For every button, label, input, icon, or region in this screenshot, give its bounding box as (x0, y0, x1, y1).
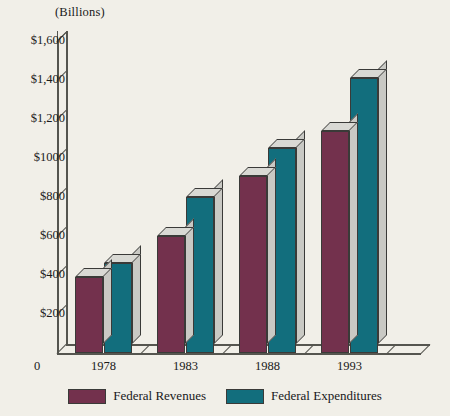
bar-front-face (157, 236, 185, 353)
y-axis-tick-label: $1,600 (0, 33, 65, 48)
bar-side-face (378, 60, 387, 344)
federal-budget-bar-chart: (Billions) $200$400$600$800$1000$1,200$1… (0, 0, 450, 416)
bar-front-face (239, 176, 267, 353)
x-axis-label-1988: 1988 (238, 359, 298, 374)
legend-label-revenues: Federal Revenues (113, 388, 206, 404)
legend-label-expenditures: Federal Expenditures (271, 388, 382, 404)
bar-side-face (296, 130, 305, 344)
x-axis-label-1993: 1993 (320, 359, 380, 374)
y-axis-tick-label: $1000 (0, 150, 65, 165)
plot-area: $200$400$600$800$1000$1,200$1,400$1,600 … (0, 0, 450, 416)
bar-front-face (75, 277, 103, 353)
x-axis-label-1978: 1978 (74, 359, 134, 374)
bar-side-face (185, 218, 194, 344)
bar-side-face (349, 113, 358, 344)
y-axis-tick-label: $800 (0, 189, 65, 204)
x-axis-label-1983: 1983 (156, 359, 216, 374)
bar-1983-revenues[interactable] (157, 227, 185, 353)
legend-item-expenditures[interactable]: Federal Expenditures (226, 388, 382, 404)
chart-legend: Federal Revenues Federal Expenditures (0, 388, 450, 404)
y-axis-tick-label: $400 (0, 267, 65, 282)
legend-item-revenues[interactable]: Federal Revenues (68, 388, 206, 404)
bar-1978-revenues[interactable] (75, 268, 103, 353)
legend-swatch-revenues (68, 389, 106, 404)
x-axis-origin-label: 0 (34, 359, 40, 374)
floor-front-edge (57, 353, 421, 355)
y-axis-tick-label: $600 (0, 228, 65, 243)
y-axis-tick-label: $200 (0, 306, 65, 321)
bar-1988-revenues[interactable] (239, 167, 267, 353)
y-axis-tick-label: $1,200 (0, 111, 65, 126)
bar-side-face (214, 179, 223, 344)
bar-front-face (321, 131, 349, 353)
bar-side-face (267, 158, 276, 344)
legend-swatch-expenditures (226, 389, 264, 404)
bar-1993-revenues[interactable] (321, 122, 349, 353)
y-axis-tick-label: $1,400 (0, 72, 65, 87)
